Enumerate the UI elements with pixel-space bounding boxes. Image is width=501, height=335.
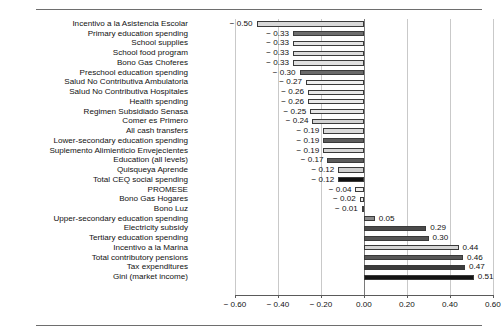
bar bbox=[364, 236, 429, 241]
bar-row: Gini (market income)0.51 bbox=[0, 273, 494, 283]
bar-row: Bono Gas Choferes− 0.33 bbox=[0, 59, 494, 69]
bar bbox=[310, 109, 364, 114]
category-label: PROMESE bbox=[148, 185, 188, 195]
bar-row: Electricity subsidy0.29 bbox=[0, 224, 494, 234]
value-label: − 0.17 bbox=[297, 155, 323, 165]
value-label: 0.29 bbox=[430, 223, 446, 233]
bar bbox=[323, 148, 364, 153]
bar bbox=[300, 70, 365, 75]
value-label: 0.46 bbox=[467, 253, 483, 263]
category-label: Electricity subsidy bbox=[124, 223, 188, 233]
category-label: Regimen Subsidiado Senasa bbox=[84, 107, 188, 117]
value-label: − 0.12 bbox=[308, 165, 334, 175]
category-label: Lower-secondary education spending bbox=[53, 136, 188, 146]
category-label: Bono Gas Hogares bbox=[119, 194, 188, 204]
value-label: 0.05 bbox=[379, 214, 395, 224]
category-label: Gini (market income) bbox=[113, 272, 188, 282]
value-label: 0.30 bbox=[433, 233, 449, 243]
value-label: 0.47 bbox=[469, 262, 485, 272]
category-label: Bono Luz bbox=[154, 204, 188, 214]
bar bbox=[293, 31, 364, 36]
bar bbox=[293, 41, 364, 46]
value-label: − 0.19 bbox=[293, 126, 319, 136]
bar bbox=[293, 60, 364, 65]
bar-row: School supplies− 0.33 bbox=[0, 39, 494, 49]
bar bbox=[257, 21, 365, 26]
category-label: Suplemento Alimienticio Envejecientes bbox=[49, 146, 188, 156]
x-axis-tick bbox=[364, 295, 365, 298]
value-label: − 0.24 bbox=[282, 116, 308, 126]
value-label: − 0.33 bbox=[263, 38, 289, 48]
bar-row: Primary education spending− 0.33 bbox=[0, 30, 494, 40]
x-axis-tick bbox=[450, 295, 451, 298]
value-label: − 0.25 bbox=[280, 107, 306, 117]
x-axis-tick-label: − 0.40 bbox=[267, 300, 290, 310]
bar-row: Comer es Primero− 0.24 bbox=[0, 117, 494, 127]
value-label: − 0.30 bbox=[270, 68, 296, 78]
bar-row: PROMESE− 0.04 bbox=[0, 186, 494, 196]
bar-row: Tertiary education spending0.30 bbox=[0, 234, 494, 244]
category-label: Total contributory pensions bbox=[92, 253, 188, 263]
category-label: Health spending bbox=[130, 97, 189, 107]
bar-row: Regimen Subsidiado Senasa− 0.25 bbox=[0, 108, 494, 118]
value-label: − 0.12 bbox=[308, 175, 334, 185]
bar-row: Total contributory pensions0.46 bbox=[0, 254, 494, 264]
value-label: − 0.27 bbox=[276, 77, 302, 87]
value-label: − 0.50 bbox=[227, 19, 253, 29]
bar bbox=[364, 245, 459, 250]
category-label: Salud No Contributiva Ambulatoria bbox=[64, 77, 188, 87]
x-axis-tick-label: − 0.20 bbox=[310, 300, 333, 310]
bar-row: Suplemento Alimienticio Envejecientes− 0… bbox=[0, 147, 494, 157]
bar-row: Bono Gas Hogares− 0.02 bbox=[0, 195, 494, 205]
value-label: − 0.19 bbox=[293, 136, 319, 146]
bar-row: School food program− 0.33 bbox=[0, 49, 494, 59]
bar bbox=[327, 158, 364, 163]
category-label: Upper-secondary education spending bbox=[53, 214, 188, 224]
value-label: − 0.26 bbox=[278, 87, 304, 97]
x-axis-tick bbox=[407, 295, 408, 298]
bar bbox=[364, 265, 465, 270]
category-label: Salud No Contributiva Hospitales bbox=[69, 87, 188, 97]
bar bbox=[308, 99, 364, 104]
value-label: − 0.33 bbox=[263, 58, 289, 68]
bar bbox=[355, 187, 364, 192]
x-axis-tick-label: 0.20 bbox=[399, 300, 415, 310]
category-label: Quisqueya Aprende bbox=[117, 165, 188, 175]
category-label: Education (all levels) bbox=[113, 155, 188, 165]
bar bbox=[362, 206, 364, 211]
category-label: School supplies bbox=[131, 38, 188, 48]
category-label: School food program bbox=[113, 48, 188, 58]
category-label: Incentivo a la Marina bbox=[113, 243, 188, 253]
value-label: − 0.01 bbox=[332, 204, 358, 214]
bar bbox=[306, 80, 364, 85]
bar-row: Total CEQ social spending− 0.12 bbox=[0, 176, 494, 186]
bar-row: Incentivo a la Marina0.44 bbox=[0, 244, 494, 254]
bar bbox=[323, 128, 364, 133]
x-axis-tick bbox=[235, 295, 236, 298]
value-label: − 0.04 bbox=[325, 185, 351, 195]
bar-row: Quisqueya Aprende− 0.12 bbox=[0, 166, 494, 176]
bar bbox=[293, 51, 364, 56]
category-label: Bono Gas Choferes bbox=[117, 58, 188, 68]
value-label: − 0.02 bbox=[330, 194, 356, 204]
bar-row: Education (all levels)− 0.17 bbox=[0, 156, 494, 166]
category-label: Primary education spending bbox=[88, 29, 188, 39]
bar bbox=[338, 167, 364, 172]
x-axis-tick-label: − 0.60 bbox=[224, 300, 247, 310]
bar-row: Health spending− 0.26 bbox=[0, 98, 494, 108]
bar-row: Tax expenditures0.47 bbox=[0, 263, 494, 273]
bar bbox=[364, 275, 474, 280]
category-label: Total CEQ social spending bbox=[93, 175, 188, 185]
value-label: − 0.26 bbox=[278, 97, 304, 107]
value-label: − 0.19 bbox=[293, 146, 319, 156]
top-rule bbox=[36, 9, 482, 10]
value-label: − 0.33 bbox=[263, 29, 289, 39]
bar bbox=[312, 119, 364, 124]
x-axis-tick-label: 0.00 bbox=[356, 300, 372, 310]
bar bbox=[323, 138, 364, 143]
bar bbox=[364, 216, 375, 221]
category-label: Comer es Primero bbox=[122, 116, 188, 126]
x-axis-tick bbox=[321, 295, 322, 298]
bar-row: Salud No Contributiva Hospitales− 0.26 bbox=[0, 88, 494, 98]
